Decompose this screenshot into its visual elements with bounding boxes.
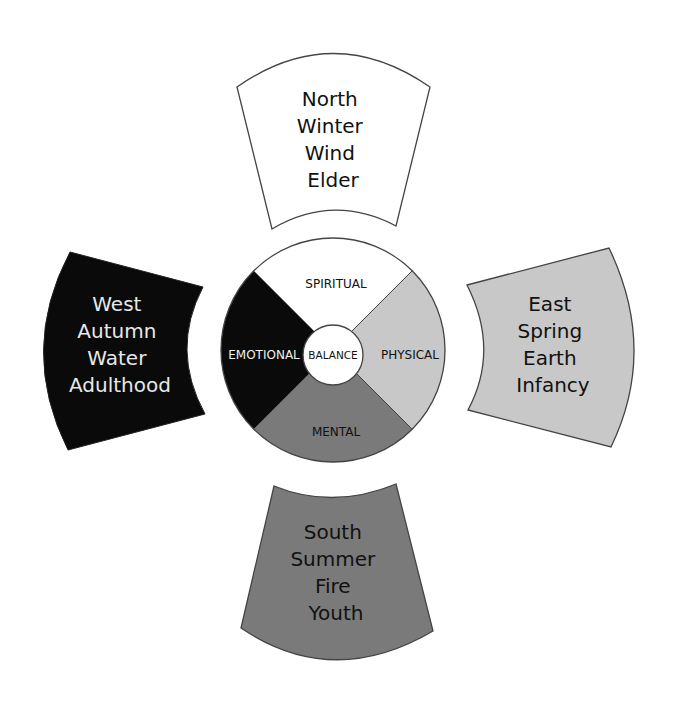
balance-label: BALANCE	[308, 349, 357, 361]
south-block	[241, 484, 433, 660]
label-physical: PHYSICAL	[381, 348, 439, 362]
label-mental: MENTAL	[312, 425, 361, 439]
label-spiritual: SPIRITUAL	[305, 277, 367, 291]
label-emotional: EMOTIONAL	[228, 348, 300, 362]
medicine-wheel-diagram: North Winter Wind Elder West Autumn Wate…	[0, 0, 673, 705]
